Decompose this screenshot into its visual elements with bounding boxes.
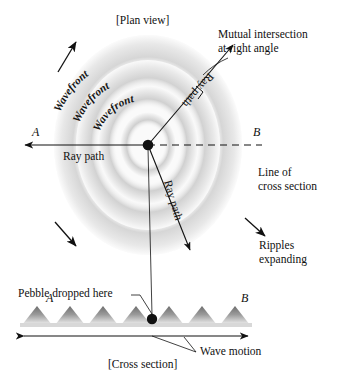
mutual-intersection-label-line1: Mutual intersection — [218, 28, 308, 41]
pebble-dropped-here-label: Pebble dropped here — [18, 287, 113, 300]
ripple-wave-diagram: Wavefront Wavefront Wavefront Ray path R… — [0, 0, 339, 376]
cross-section-caption: [Cross section] — [108, 358, 177, 371]
mutual-intersection-label-line2: at right angle — [218, 42, 279, 55]
water-baseline — [20, 323, 252, 327]
cross-section-group — [20, 295, 252, 352]
ripples-expanding-label-line1: Ripples — [259, 239, 294, 252]
wavefront-direction-arrow-topleft — [58, 42, 76, 72]
wave-humps — [22, 306, 250, 325]
plan-point-b-label: B — [253, 126, 260, 139]
wave-hump — [88, 306, 118, 325]
ripple-direction-arrow-bottomleft — [55, 222, 76, 246]
ray-path-horizontal-label: Ray path — [63, 150, 104, 163]
plan-view-caption: [Plan view] — [116, 14, 169, 27]
line-of-cross-section-label-line2: cross section — [258, 180, 317, 193]
cross-point-b-label: B — [241, 292, 248, 305]
wave-hump — [22, 306, 52, 325]
wave-hump — [121, 306, 151, 325]
ripple-direction-arrow-right — [245, 218, 265, 236]
cross-point-a-label: A — [46, 292, 53, 305]
wave-hump — [187, 306, 217, 325]
pebble-dot — [147, 314, 157, 324]
wave-motion-label: Wave motion — [200, 345, 261, 358]
ripples-expanding-label-line2: expanding — [259, 253, 307, 266]
wave-hump — [154, 306, 184, 325]
wave-hump — [220, 306, 250, 325]
line-of-cross-section-label-line1: Line of — [258, 166, 292, 179]
wave-hump — [55, 306, 85, 325]
plan-point-a-label: A — [32, 126, 39, 139]
impact-point-dot — [143, 140, 154, 151]
